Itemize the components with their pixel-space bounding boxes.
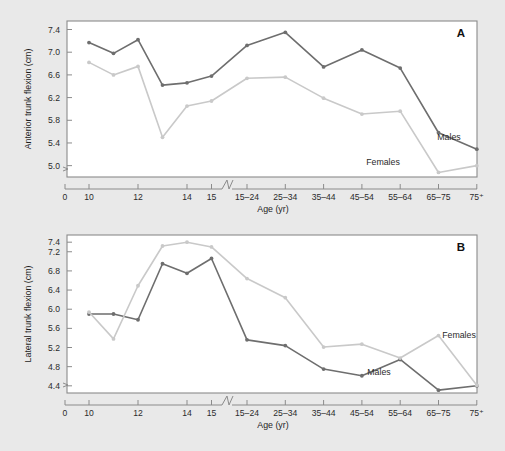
data-point — [283, 30, 287, 34]
y-tick-label: 4.4 — [48, 381, 60, 391]
x-tick-label: 65–75 — [427, 408, 451, 418]
data-point — [475, 164, 479, 168]
y-tick-label: 7.4 — [48, 25, 60, 35]
y-tick-label: 5.8 — [48, 115, 60, 125]
x-axis-break-icon — [222, 396, 233, 405]
x-tick-label: 0 — [63, 408, 68, 418]
data-point — [161, 135, 165, 139]
data-point — [245, 338, 249, 342]
data-point — [136, 38, 140, 42]
panel-b: 7.47.26.86.46.05.65.24.84.401012141515–2… — [11, 217, 494, 442]
data-point — [161, 262, 165, 266]
data-point — [360, 112, 364, 116]
data-point — [322, 96, 326, 100]
data-point — [136, 64, 140, 68]
x-tick-label: 25–34 — [273, 192, 297, 202]
data-point — [185, 81, 189, 85]
data-point — [185, 240, 189, 244]
data-point — [322, 367, 326, 371]
data-point — [360, 342, 364, 346]
y-tick-label: 6.8 — [48, 266, 60, 276]
x-tick-label: 45–54 — [350, 408, 374, 418]
panel-a: 7.47.06.66.25.85.45.001012141515–2425–34… — [11, 9, 494, 217]
data-point — [283, 75, 287, 79]
x-tick-label: 14 — [182, 408, 192, 418]
y-axis-title: Lateral trunk flexion (cm) — [23, 266, 33, 363]
x-tick-label: 35–44 — [312, 192, 336, 202]
x-tick-label: 14 — [182, 192, 192, 202]
x-tick-label: 15–24 — [235, 408, 259, 418]
data-point — [161, 244, 165, 248]
y-tick-label: 7.2 — [48, 247, 60, 257]
x-tick-label: 75⁺ — [470, 408, 485, 418]
x-tick-label: 15 — [207, 192, 217, 202]
y-tick-label: 7.0 — [48, 47, 60, 57]
series-label-males: Males — [367, 367, 391, 377]
data-point — [112, 51, 116, 55]
data-point — [210, 257, 214, 261]
figure-container: 7.47.06.66.25.85.45.001012141515–2425–34… — [11, 9, 494, 442]
data-point — [112, 337, 116, 341]
y-tick-label: 6.6 — [48, 70, 60, 80]
data-point — [87, 61, 91, 65]
data-point — [112, 73, 116, 77]
x-tick-label: 55–64 — [388, 408, 412, 418]
panel-b-svg: 7.47.26.86.46.05.65.24.84.401012141515–2… — [11, 217, 494, 442]
y-tick-label: 6.2 — [48, 93, 60, 103]
x-tick-label: 35–44 — [312, 408, 336, 418]
data-point — [322, 65, 326, 69]
series-label-males: Males — [437, 132, 461, 142]
y-tick-label: 7.4 — [48, 237, 60, 247]
data-point — [87, 41, 91, 45]
data-point — [437, 334, 441, 338]
data-point — [283, 344, 287, 348]
data-point — [87, 310, 91, 314]
data-point — [398, 356, 402, 360]
data-point — [210, 99, 214, 103]
data-point — [437, 388, 441, 392]
data-point — [360, 374, 364, 378]
data-point — [283, 296, 287, 300]
data-point — [161, 83, 165, 87]
panel-letter: B — [457, 241, 465, 253]
data-point — [112, 312, 116, 316]
x-tick-label: 12 — [133, 192, 143, 202]
series-label-females: Females — [442, 330, 476, 340]
x-tick-label: 45–54 — [350, 192, 374, 202]
x-tick-label: 0 — [63, 192, 68, 202]
x-tick-label: 25–34 — [273, 408, 297, 418]
y-tick-label: 5.4 — [48, 138, 60, 148]
panel-a-svg: 7.47.06.66.25.85.45.001012141515–2425–34… — [11, 9, 494, 217]
x-tick-label: 15 — [207, 408, 217, 418]
data-point — [475, 383, 479, 387]
data-point — [437, 171, 441, 175]
y-axis-title: Anterior trunk flexion (cm) — [23, 49, 33, 150]
x-axis-title: Age (yr) — [257, 204, 288, 214]
y-tick-label: 5.2 — [48, 343, 60, 353]
data-point — [322, 345, 326, 349]
y-tick-label: 4.8 — [48, 362, 60, 372]
x-tick-label: 12 — [133, 408, 143, 418]
x-axis-title: Age (yr) — [257, 420, 288, 430]
x-tick-label: 15–24 — [235, 192, 259, 202]
x-tick-label: 65–75 — [427, 192, 451, 202]
data-point — [136, 318, 140, 322]
panel-letter: A — [457, 27, 465, 39]
data-point — [398, 109, 402, 113]
data-point — [360, 48, 364, 52]
data-point — [398, 66, 402, 70]
data-point — [185, 271, 189, 275]
y-tick-label: 5.0 — [48, 161, 60, 171]
y-tick-label: 6.4 — [48, 285, 60, 295]
data-point — [185, 104, 189, 108]
plot-frame — [67, 235, 477, 393]
data-point — [210, 245, 214, 249]
x-tick-label: 55–64 — [388, 192, 412, 202]
data-point — [210, 74, 214, 78]
y-tick-label: 5.6 — [48, 323, 60, 333]
data-point — [475, 147, 479, 151]
x-tick-label: 10 — [84, 408, 94, 418]
series-label-females: Females — [366, 157, 400, 167]
y-tick-label: 6.0 — [48, 304, 60, 314]
x-tick-label: 75⁺ — [470, 192, 485, 202]
